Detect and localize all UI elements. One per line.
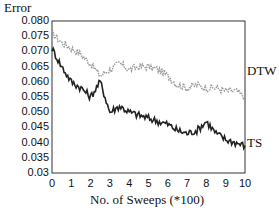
ts-series-label: TS [247, 135, 262, 151]
ts-line [52, 48, 245, 148]
x-axis-title: No. of Sweeps (*100) [90, 192, 204, 208]
dtw-series-label: DTW [247, 63, 277, 79]
plot-area [0, 0, 279, 211]
plot-frame [52, 21, 245, 173]
